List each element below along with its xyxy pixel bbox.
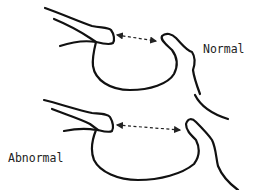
normal-upper-bone-inner <box>54 19 96 42</box>
joint-space-diagram: Normal Abnormal <box>0 0 266 190</box>
abnormal-gap-arrow <box>117 125 180 130</box>
abnormal-lower-tail-top <box>195 95 228 119</box>
abnormal-label: Abnormal <box>8 151 63 165</box>
normal-upper-bone-outer <box>45 8 114 44</box>
normal-label: Normal <box>203 42 245 56</box>
abnormal-panel: Abnormal <box>8 95 238 190</box>
normal-gap-arrow <box>117 35 156 41</box>
normal-panel: Normal <box>45 8 245 94</box>
abnormal-cup-outline <box>64 119 238 190</box>
abnormal-upper-bone-outer <box>44 100 113 132</box>
normal-cup-outline <box>60 34 200 94</box>
